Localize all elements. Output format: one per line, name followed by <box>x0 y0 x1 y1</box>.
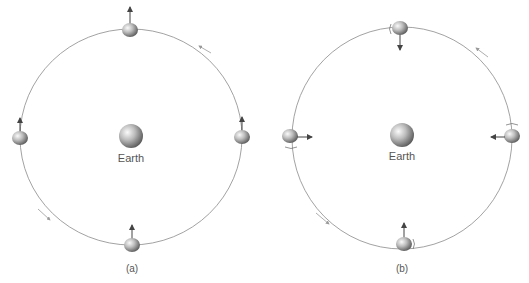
orbit-diagram <box>0 0 529 283</box>
panel-caption-b: (b) <box>396 263 408 274</box>
panel-b <box>282 21 520 251</box>
orbit-direction-arrow <box>476 48 488 57</box>
panel-a <box>12 7 250 252</box>
earth-label-b: Earth <box>389 150 415 162</box>
orbit-direction-arrow <box>38 209 50 220</box>
moon-left <box>282 129 312 149</box>
orbit-direction-arrow <box>199 46 211 53</box>
moon-bottom <box>396 223 415 251</box>
moon-bottom <box>124 225 140 252</box>
moon-right <box>234 117 250 144</box>
earth-sphere <box>119 124 143 148</box>
earth-sphere <box>390 123 414 147</box>
earth-label-a: Earth <box>118 152 144 164</box>
moon-right <box>491 124 520 144</box>
moon-left <box>12 118 28 145</box>
moon-top <box>390 21 409 50</box>
moon-top <box>122 7 138 37</box>
panel-caption-a: (a) <box>126 263 138 274</box>
